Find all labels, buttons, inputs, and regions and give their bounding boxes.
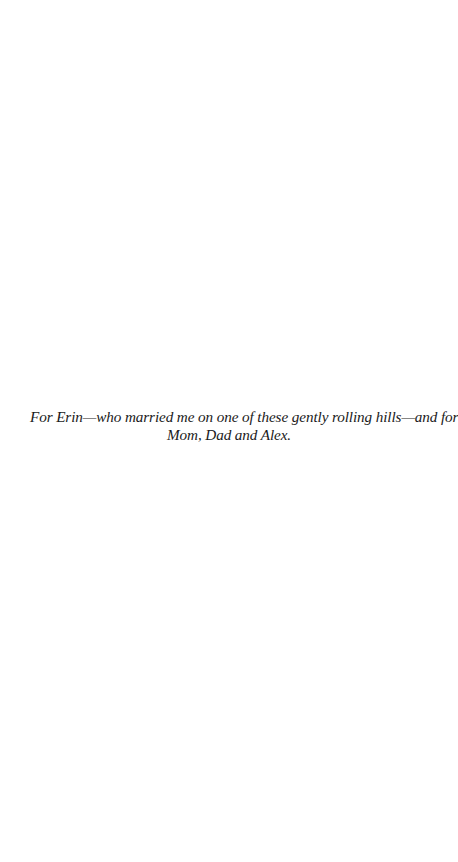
book-page: For Erin—who married me on one of these … [0, 0, 458, 862]
dedication-text: For Erin—who married me on one of these … [30, 408, 428, 444]
dedication-line-2: Mom, Dad and Alex. [30, 426, 428, 444]
dedication-line-1: For Erin—who married me on one of these … [30, 408, 428, 426]
